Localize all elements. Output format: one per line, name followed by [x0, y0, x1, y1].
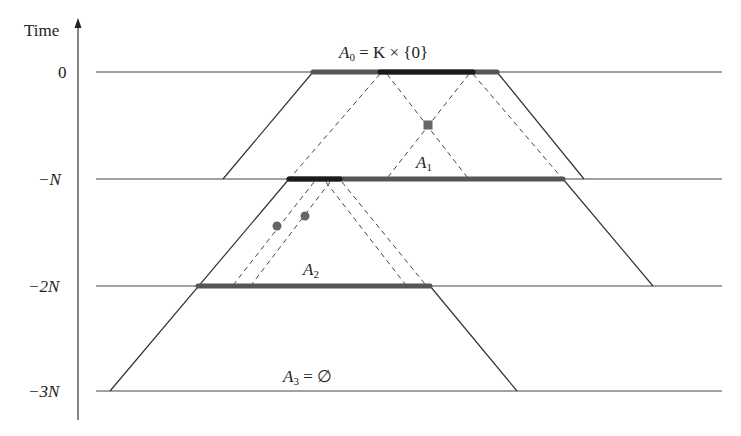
set-name: A [303, 260, 313, 279]
time-levels [96, 72, 722, 391]
tick-label-minus-n: −N [38, 171, 61, 188]
tick-label-minus-2n: −2N [28, 278, 59, 295]
set-label-a2: A2 [303, 261, 319, 280]
dot-marker-1 [273, 222, 282, 231]
square-marker [424, 121, 433, 130]
set-label-a0: A0 = K × {0} [339, 44, 428, 63]
tick-label-minus-3n: −3N [28, 383, 59, 400]
set-definition: = K × {0} [355, 43, 428, 62]
axis-arrow-icon [75, 18, 82, 28]
axis-label: Time [24, 22, 59, 39]
set-index: 1 [426, 161, 432, 173]
set-name: A [339, 43, 349, 62]
set-label-a1: A1 [416, 154, 432, 173]
set-index: 2 [313, 268, 319, 280]
set-definition: = ∅ [299, 367, 332, 386]
set-label-a3: A3 = ∅ [283, 368, 332, 387]
dot-marker-2 [301, 212, 310, 221]
cone-boundaries [110, 72, 653, 391]
tick-label-0: 0 [58, 64, 67, 81]
set-name: A [416, 153, 426, 172]
time-evolution-diagram [0, 0, 741, 436]
time-axis [75, 18, 82, 420]
set-name: A [283, 367, 293, 386]
